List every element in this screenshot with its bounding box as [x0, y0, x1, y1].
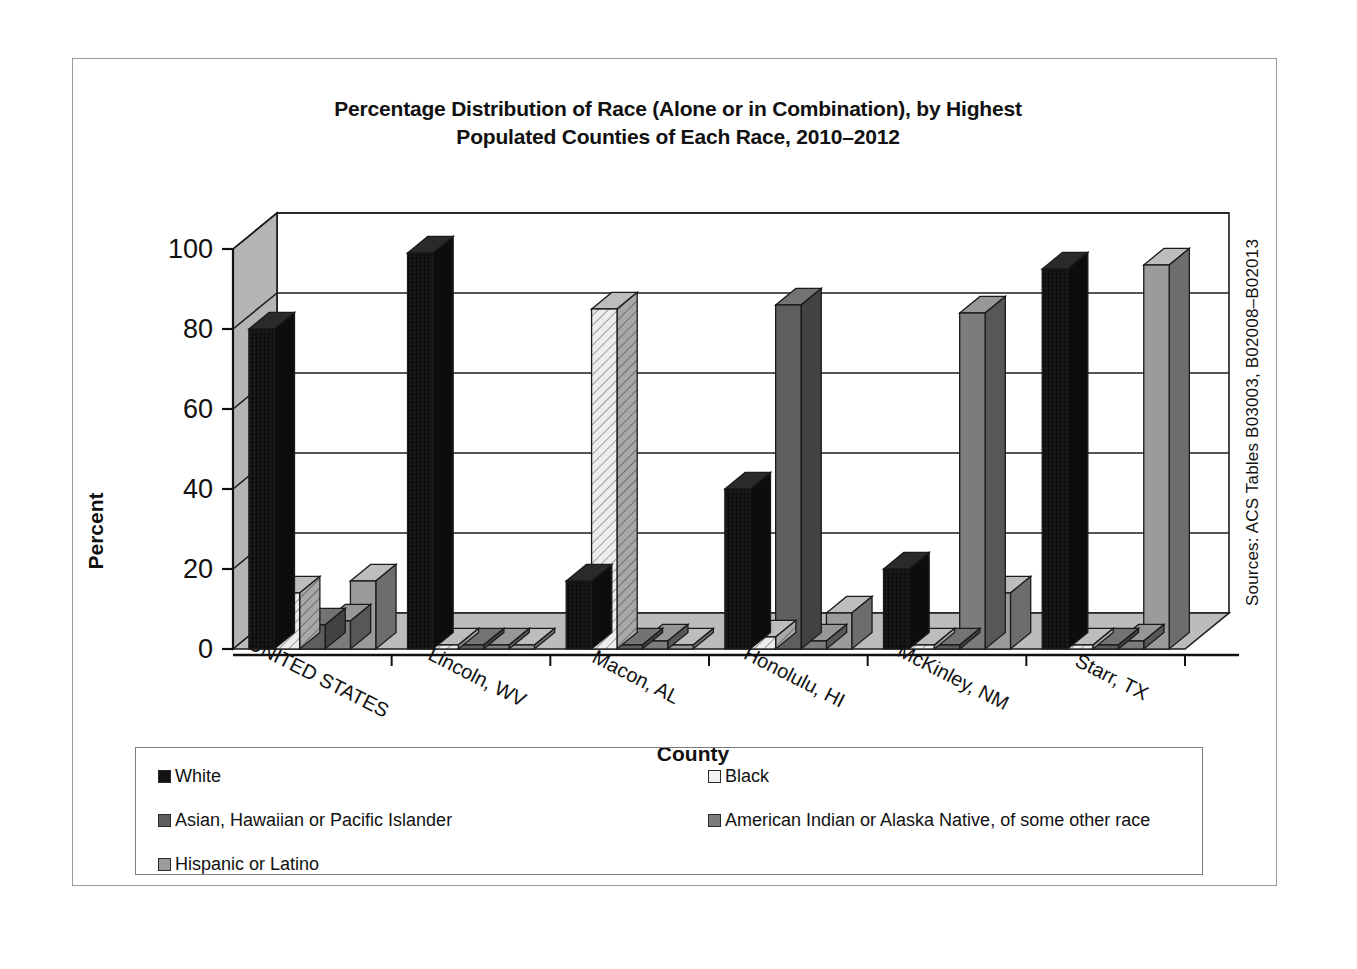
legend-item-white[interactable]: White	[158, 766, 221, 787]
legend-item-american-indian-alaska-native[interactable]: American Indian or Alaska Native, of som…	[708, 810, 1150, 831]
chart-title: Percentage Distribution of Race (Alone o…	[183, 95, 1173, 150]
legend-label: Hispanic or Latino	[175, 854, 319, 875]
y-tick-label: 80	[183, 314, 213, 344]
legend-swatch-icon	[158, 814, 171, 827]
bar-chart-svg: 020406080100 UNITED STATESLincoln, WVMac…	[73, 171, 1278, 771]
bar	[884, 552, 930, 649]
y-axis-tick-labels: 020406080100	[168, 234, 213, 664]
legend-swatch-icon	[158, 770, 171, 783]
legend-label: Black	[725, 766, 769, 787]
legend: White Black Asian, Hawaiian or Pacific I…	[135, 747, 1203, 875]
bar	[566, 564, 612, 649]
bar	[249, 312, 295, 649]
x-tick-label: McKinley, NM	[894, 639, 1013, 714]
x-tick-label: Lincoln, WV	[425, 643, 531, 711]
bar	[408, 236, 454, 649]
x-tick-label: Starr, TX	[1072, 649, 1152, 704]
figure-frame: Percentage Distribution of Race (Alone o…	[72, 58, 1277, 886]
chart-title-line-1: Percentage Distribution of Race (Alone o…	[183, 95, 1173, 123]
y-axis-title: Percent	[84, 492, 107, 569]
legend-item-black[interactable]: Black	[708, 766, 769, 787]
bar	[960, 296, 1006, 649]
legend-item-hispanic-or-latino[interactable]: Hispanic or Latino	[158, 854, 319, 875]
y-tick-label: 60	[183, 394, 213, 424]
bar	[1042, 252, 1088, 649]
chart-title-line-2: Populated Counties of Each Race, 2010–20…	[183, 123, 1173, 151]
legend-label: American Indian or Alaska Native, of som…	[725, 810, 1150, 831]
bar	[1144, 248, 1190, 649]
bar	[776, 288, 822, 649]
y-tick-label: 100	[168, 234, 213, 264]
y-tick-label: 20	[183, 554, 213, 584]
y-tick-label: 40	[183, 474, 213, 504]
legend-swatch-icon	[708, 770, 721, 783]
bar	[725, 472, 771, 649]
legend-swatch-icon	[158, 858, 171, 871]
legend-label: Asian, Hawaiian or Pacific Islander	[175, 810, 452, 831]
y-tick-label: 0	[198, 634, 213, 664]
plot-area: 020406080100 UNITED STATESLincoln, WVMac…	[73, 171, 1278, 771]
legend-item-asian-hawaiian-pacific-islander[interactable]: Asian, Hawaiian or Pacific Islander	[158, 810, 452, 831]
x-tick-label: Honolulu, HI	[741, 642, 849, 712]
legend-swatch-icon	[708, 814, 721, 827]
legend-label: White	[175, 766, 221, 787]
